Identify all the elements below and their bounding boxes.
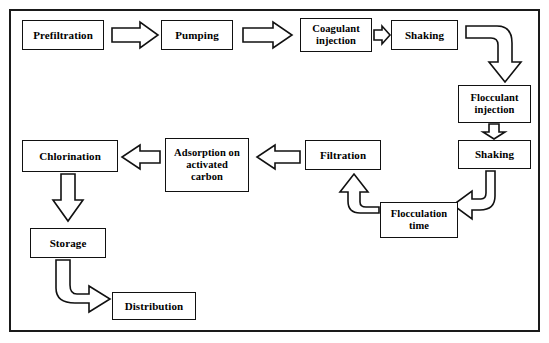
node-distribution[interactable]: Distribution (112, 292, 196, 320)
node-label: Storage (47, 237, 90, 249)
node-label: Pumping (172, 29, 222, 41)
node-label: Shaking (402, 29, 447, 41)
arrow-shaking-to-flocculant (466, 26, 521, 82)
node-label: Shaking (472, 148, 517, 160)
node-pumping[interactable]: Pumping (161, 20, 233, 50)
diagram-canvas: Prefiltration Pumping Coagulant injectio… (0, 0, 549, 343)
arrow-chlorination-to-storage (53, 174, 83, 221)
arrow-shaking-to-flocculation (453, 171, 495, 219)
node-label: Prefiltration (30, 29, 96, 41)
arrow-flocculant-to-shaking (483, 124, 505, 139)
node-adsorption-on-activated-carbon[interactable]: Adsorption on activated carbon (165, 138, 249, 192)
node-label: Chlorination (36, 150, 104, 162)
arrow-prefiltration-to-pumping (112, 22, 158, 48)
node-label: Adsorption on activated carbon (166, 147, 248, 182)
arrow-filtration-to-adsorption (257, 145, 300, 169)
arrow-adsorption-to-chlorination (122, 145, 160, 169)
node-flocculant-injection[interactable]: Flocculant injection (458, 85, 531, 123)
node-chlorination[interactable]: Chlorination (22, 140, 118, 172)
node-label: Coagulant injection (301, 23, 371, 47)
node-shaking-top[interactable]: Shaking (391, 20, 458, 50)
node-label: Flocculation time (381, 208, 457, 232)
node-coagulant-injection[interactable]: Coagulant injection (300, 18, 372, 52)
node-prefiltration[interactable]: Prefiltration (22, 20, 104, 50)
node-label: Flocculant injection (459, 92, 530, 116)
arrow-coagulant-to-shaking (374, 26, 390, 44)
node-storage[interactable]: Storage (30, 228, 106, 258)
node-label: Distribution (122, 300, 187, 312)
node-shaking-right[interactable]: Shaking (458, 140, 531, 169)
node-filtration[interactable]: Filtration (305, 140, 381, 170)
arrow-flocculation-to-filtration (340, 174, 379, 213)
arrow-storage-to-distribution (56, 260, 110, 312)
node-label: Filtration (317, 149, 369, 161)
node-flocculation-time[interactable]: Flocculation time (380, 202, 458, 238)
arrow-pumping-to-coagulant (243, 22, 292, 48)
